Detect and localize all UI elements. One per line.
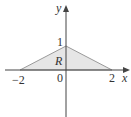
x-tick-neg2: −2	[12, 73, 25, 87]
y-axis-arrow-icon	[63, 5, 69, 12]
x-tick-2: 2	[109, 71, 115, 85]
y-tick-1: 1	[57, 35, 63, 49]
region-diagram: y x 1 R 0 −2 2	[0, 0, 131, 117]
origin-label: 0	[57, 71, 63, 85]
region-label: R	[54, 54, 63, 68]
y-axis-label: y	[55, 1, 62, 15]
x-axis-label: x	[121, 71, 128, 85]
